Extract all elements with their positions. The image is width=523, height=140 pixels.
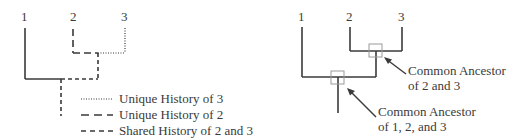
arrow-ancestor-2-3	[384, 57, 406, 74]
annotation-ancestor-2-3-line2: of 2 and 3	[408, 78, 460, 93]
taxon-label-2: 2	[70, 9, 77, 24]
right-cladogram: 1 2 3 Common Ancestor of 2 and 3 Common …	[298, 9, 507, 134]
annotation-ancestor-2-3-line1: Common Ancestor	[408, 63, 507, 78]
taxon-label-2-right: 2	[346, 9, 353, 24]
taxon-label-3-right: 3	[398, 9, 405, 24]
legend: Unique History of 3 Unique History of 2 …	[81, 91, 253, 138]
taxon-label-3: 3	[121, 9, 128, 24]
legend-label-unique-3: Unique History of 3	[119, 91, 223, 106]
taxon-label-1: 1	[21, 9, 28, 24]
left-cladogram: 1 2 3 Unique History of 3 Unique History…	[21, 9, 253, 138]
taxon-label-1-right: 1	[298, 9, 305, 24]
legend-label-unique-2: Unique History of 2	[119, 107, 223, 122]
annotation-ancestor-1-2-3-line2: of 1, 2, and 3	[378, 119, 447, 134]
annotation-ancestor-1-2-3-line1: Common Ancestor	[378, 104, 477, 119]
legend-label-shared-2-3: Shared History of 2 and 3	[119, 123, 253, 138]
phylogeny-figure: 1 2 3 Unique History of 3 Unique History…	[0, 0, 523, 140]
arrow-ancestor-1-2-3	[347, 88, 376, 117]
